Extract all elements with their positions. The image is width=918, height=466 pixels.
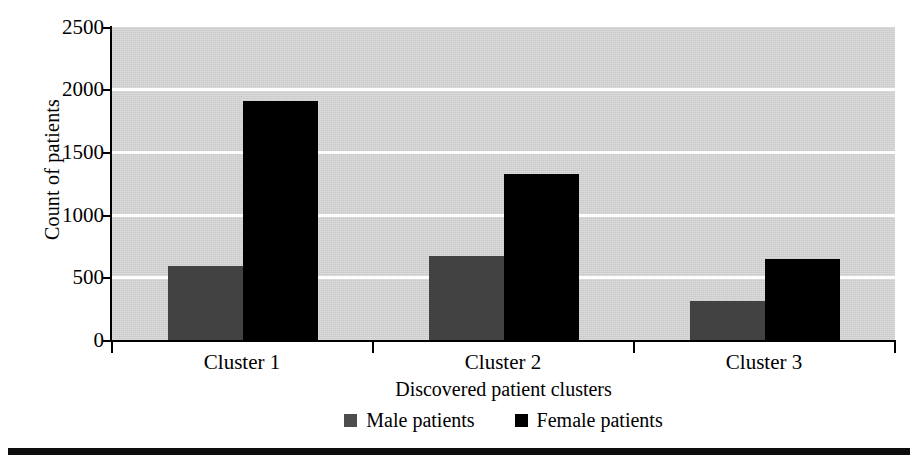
x-tick-mark-1 <box>372 342 374 353</box>
bar-cluster-2-female <box>504 174 579 340</box>
x-tick-label-cluster-3: Cluster 3 <box>726 350 802 375</box>
y-tick-label-2500: 2500 <box>38 17 104 38</box>
x-tick-label-cluster-1: Cluster 1 <box>204 350 280 375</box>
y-tick-label-1500: 1500 <box>38 142 104 163</box>
bar-cluster-1-male <box>168 266 243 340</box>
plot-area <box>112 27 895 340</box>
x-axis-title: Discovered patient clusters <box>112 378 895 401</box>
y-tick-label-0: 0 <box>38 330 104 351</box>
bar-chart-figure: Count of patients 2500 2000 1500 1000 50… <box>0 0 918 466</box>
y-tick-label-1000: 1000 <box>38 205 104 226</box>
legend-item-male: Male patients <box>344 410 474 430</box>
x-tick-mark-start <box>111 342 113 353</box>
bar-cluster-2-male <box>429 256 504 340</box>
y-tick-label-2000: 2000 <box>38 79 104 100</box>
chart-legend: Male patients Female patients <box>112 410 895 430</box>
square-gray-icon <box>344 414 357 427</box>
y-axis-line <box>110 26 112 342</box>
bar-cluster-1-female <box>243 101 318 340</box>
legend-item-female: Female patients <box>515 410 663 430</box>
y-axis-tick-labels: 2500 2000 1500 1000 500 0 <box>28 0 104 466</box>
legend-label-female: Female patients <box>537 410 663 430</box>
x-tick-mark-2 <box>633 342 635 353</box>
x-tick-mark-end <box>894 342 896 353</box>
y-tick-label-500: 500 <box>38 267 104 288</box>
bar-cluster-3-female <box>765 259 840 340</box>
gridline-2000 <box>112 88 895 91</box>
gridline-1500 <box>112 151 895 154</box>
x-axis-line <box>110 340 896 342</box>
bar-cluster-3-male <box>690 301 765 340</box>
x-tick-label-cluster-2: Cluster 2 <box>465 350 541 375</box>
legend-label-male: Male patients <box>366 410 474 430</box>
bottom-divider-rule <box>8 448 910 455</box>
square-black-icon <box>515 414 528 427</box>
